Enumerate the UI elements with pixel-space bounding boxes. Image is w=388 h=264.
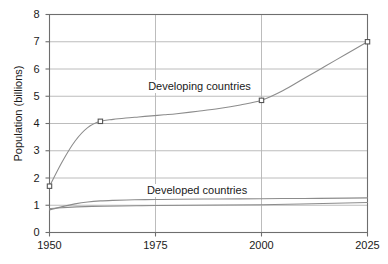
series-label-developing-countries: Developing countries — [146, 80, 253, 93]
x-tick-label: 1975 — [134, 240, 178, 251]
x-tick-label: 2000 — [240, 240, 284, 251]
series-label-developed-countries: Developed countries — [145, 184, 249, 197]
x-tick-label: 2025 — [346, 240, 388, 251]
chart-canvas — [0, 0, 388, 264]
y-tick-label: 8 — [20, 9, 40, 20]
y-tick-label: 3 — [20, 145, 40, 156]
data-point-marker — [47, 184, 51, 188]
y-tick-label: 4 — [20, 118, 40, 129]
data-point-marker — [98, 119, 102, 123]
y-tick-label: 5 — [20, 91, 40, 102]
series-markers — [47, 40, 369, 189]
data-point-marker — [259, 98, 263, 102]
y-tick-label: 6 — [20, 64, 40, 75]
y-tick-label: 1 — [20, 200, 40, 211]
y-tick-label: 0 — [20, 227, 40, 238]
y-tick-label: 2 — [20, 173, 40, 184]
population-line-chart: Population (billions) 012345678 19501975… — [0, 0, 388, 264]
data-point-marker — [365, 40, 369, 44]
series-line — [50, 42, 368, 186]
x-tick-label: 1950 — [28, 240, 72, 251]
y-tick-label: 7 — [20, 36, 40, 47]
